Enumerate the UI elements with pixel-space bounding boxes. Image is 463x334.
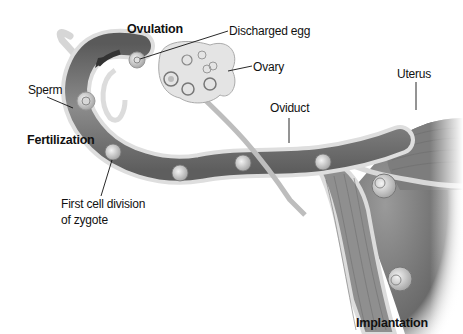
- label-ovary: Ovary: [253, 60, 284, 74]
- label-first-cell-division: First cell division: [61, 197, 145, 211]
- label-implantation: Implantation: [356, 316, 428, 330]
- reproduction-diagram: Ovulation Discharged egg Ovary Uterus Sp…: [0, 0, 463, 334]
- label-of-zygote: of zygote: [61, 213, 108, 227]
- label-discharged-egg: Discharged egg: [229, 24, 310, 38]
- label-sperm: Sperm: [28, 83, 62, 97]
- ovary: [159, 41, 235, 102]
- anatomy-illustration: [0, 0, 463, 334]
- label-uterus: Uterus: [397, 67, 431, 81]
- label-ovulation: Ovulation: [127, 22, 183, 36]
- label-fertilization: Fertilization: [27, 133, 95, 147]
- label-oviduct: Oviduct: [270, 101, 309, 115]
